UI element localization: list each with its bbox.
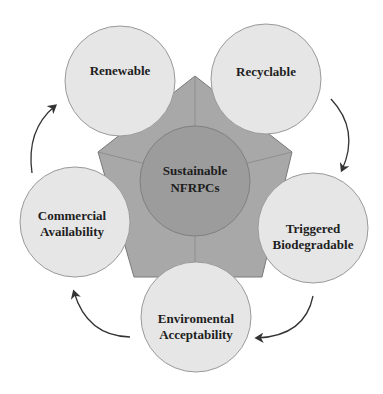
sustainability-cycle-diagram: Sustainable NFRPCs Renewable Recyclable … — [0, 0, 383, 394]
node-triggered-biodegradable: Triggered Biodegradable — [258, 173, 368, 283]
arrow-commercial-to-renewable-icon — [31, 106, 55, 173]
center-label-line1: Sustainable — [163, 163, 228, 178]
node-commercial-label-line1: Commercial — [38, 208, 107, 223]
node-commercial-label-line2: Availability — [40, 224, 105, 239]
arrow-enviromental-to-commercial-icon — [74, 292, 130, 337]
node-enviromental-label-line2: Acceptability — [159, 327, 233, 342]
node-enviromental-label-line1: Enviromental — [158, 311, 235, 326]
center-node: Sustainable NFRPCs — [140, 126, 250, 236]
node-enviromental-acceptability: Enviromental Acceptability — [141, 262, 251, 372]
center-label-line2: NFRPCs — [170, 180, 219, 195]
node-recyclable: Recyclable — [211, 24, 321, 134]
node-commercial-availability: Commercial Availability — [20, 167, 130, 277]
node-renewable: Renewable — [65, 26, 175, 136]
node-triggered-label-line1: Triggered — [286, 221, 341, 236]
node-renewable-label: Renewable — [90, 63, 151, 78]
node-triggered-label-line2: Biodegradable — [273, 237, 354, 252]
arrow-triggered-to-enviromental-icon — [257, 296, 313, 338]
node-recyclable-label: Recyclable — [236, 64, 296, 79]
arrow-recyclable-to-triggered-icon — [331, 99, 349, 170]
